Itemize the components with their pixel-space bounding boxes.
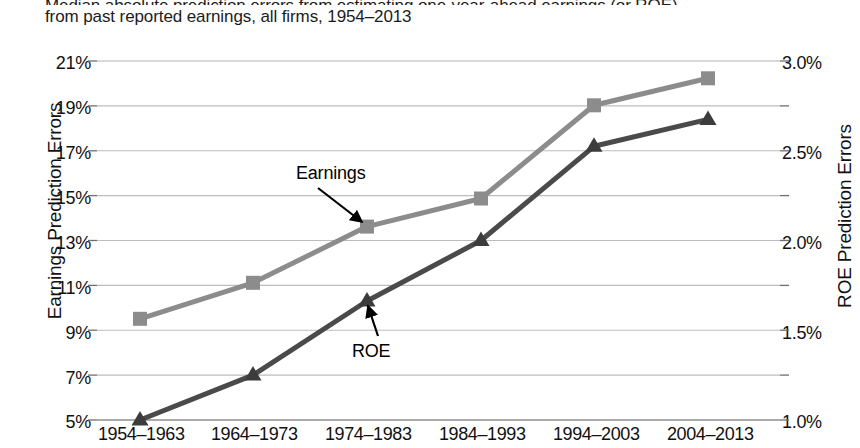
- data-point-earnings: [246, 276, 260, 290]
- earnings-series-label: Earnings: [296, 163, 365, 184]
- data-point-roe: [700, 110, 717, 125]
- series-roe: [132, 110, 717, 425]
- data-point-earnings: [133, 312, 147, 326]
- roe-series-label: ROE: [352, 341, 390, 362]
- series-earnings: [133, 71, 715, 325]
- data-point-earnings: [587, 98, 601, 112]
- data-point-earnings: [474, 192, 488, 206]
- plot-area: [0, 0, 860, 448]
- data-point-earnings: [701, 71, 715, 85]
- chart-figure: Median absolute prediction errors from e…: [0, 0, 860, 448]
- earnings-annotation-arrow: [318, 188, 362, 222]
- roe-annotation-arrow: [368, 306, 378, 336]
- gridlines: [97, 61, 780, 420]
